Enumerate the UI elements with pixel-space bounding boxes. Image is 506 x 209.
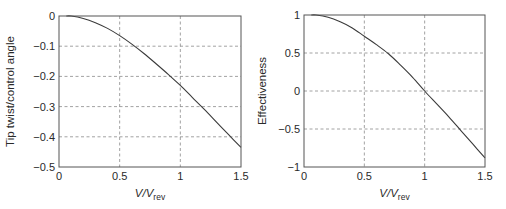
- y-tick-label: −0.5: [33, 161, 55, 173]
- tip-twist-curve: [66, 16, 241, 148]
- effectiveness-curve: [311, 15, 485, 158]
- x-tick-label: 0.5: [357, 170, 372, 182]
- x-tick-label: 0: [56, 170, 62, 182]
- grid-lines: [59, 16, 241, 167]
- plot-frame: [59, 16, 241, 167]
- grid-lines: [304, 15, 485, 167]
- y-tick-labels: 0−0.1−0.2−0.3−0.4−0.5: [33, 10, 55, 173]
- x-axis-label: V/Vrev: [379, 187, 410, 202]
- x-tick-label: 0: [301, 170, 307, 182]
- figure: 00.511.5 0−0.1−0.2−0.3−0.4−0.5 V/Vrev Ti…: [0, 0, 506, 209]
- y-tick-label: 0: [49, 10, 55, 22]
- tip-twist-chart: 00.511.5 0−0.1−0.2−0.3−0.4−0.5 V/Vrev Ti…: [4, 10, 249, 202]
- x-axis-label: V/Vrev: [135, 187, 166, 202]
- x-tick-labels: 00.511.5: [301, 170, 493, 182]
- y-tick-label: −0.2: [33, 70, 55, 82]
- y-tick-label: −0.3: [33, 101, 55, 113]
- x-tick-labels: 00.511.5: [56, 170, 249, 182]
- effectiveness-chart: 00.511.5 10.50−0.5−1 V/Vrev Effectivenes…: [256, 9, 493, 202]
- x-tick-label: 1.5: [233, 170, 248, 182]
- y-axis-label: Effectiveness: [256, 57, 268, 125]
- y-tick-label: 0.5: [285, 47, 300, 59]
- y-tick-label: 0: [294, 85, 300, 97]
- x-tick-label: 1: [177, 170, 183, 182]
- y-tick-labels: 10.50−0.5−1: [278, 9, 300, 173]
- y-tick-label: −0.1: [33, 40, 55, 52]
- y-tick-label: −0.5: [278, 123, 300, 135]
- y-tick-label: −0.4: [33, 131, 55, 143]
- x-tick-label: 0.5: [112, 170, 127, 182]
- x-tick-label: 1: [422, 170, 428, 182]
- y-axis-label: Tip twist/control angle: [4, 36, 16, 147]
- y-tick-label: 1: [294, 9, 300, 21]
- y-tick-label: −1: [287, 161, 300, 173]
- x-tick-label: 1.5: [477, 170, 492, 182]
